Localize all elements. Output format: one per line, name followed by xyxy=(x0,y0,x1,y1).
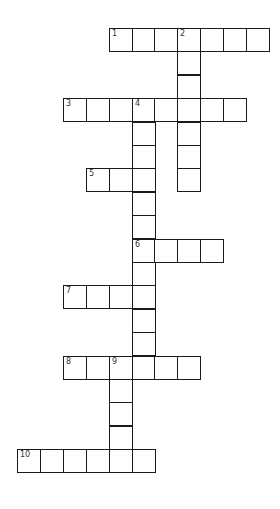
crossword-cell[interactable] xyxy=(132,28,156,52)
clue-number: 7 xyxy=(66,287,71,295)
clue-number: 3 xyxy=(66,100,71,108)
crossword-cell[interactable]: 5 xyxy=(86,168,110,192)
crossword-cell[interactable] xyxy=(177,168,201,192)
clue-number: 4 xyxy=(135,100,140,108)
clue-number: 2 xyxy=(180,30,185,38)
crossword-cell[interactable] xyxy=(132,309,156,333)
clue-number: 9 xyxy=(112,358,117,366)
crossword-cell[interactable] xyxy=(86,449,110,473)
crossword-cell[interactable] xyxy=(109,98,133,122)
crossword-cell[interactable] xyxy=(86,285,110,309)
clue-number: 6 xyxy=(135,241,140,249)
clue-number: 5 xyxy=(89,170,94,178)
crossword-cell[interactable] xyxy=(86,356,110,380)
crossword-cell[interactable] xyxy=(40,449,64,473)
crossword-grid: 12346578910 xyxy=(0,0,280,509)
crossword-cell[interactable] xyxy=(177,98,201,122)
crossword-cell[interactable] xyxy=(132,285,156,309)
crossword-cell[interactable] xyxy=(177,75,201,99)
crossword-cell[interactable] xyxy=(223,98,247,122)
clue-number: 8 xyxy=(66,358,71,366)
crossword-cell[interactable] xyxy=(132,215,156,239)
crossword-cell[interactable] xyxy=(109,426,133,450)
crossword-cell[interactable] xyxy=(223,28,247,52)
crossword-cell[interactable] xyxy=(246,28,270,52)
crossword-cell[interactable] xyxy=(154,98,178,122)
crossword-cell[interactable] xyxy=(132,332,156,356)
crossword-cell[interactable]: 8 xyxy=(63,356,87,380)
crossword-cell[interactable]: 10 xyxy=(17,449,41,473)
crossword-cell[interactable] xyxy=(109,285,133,309)
crossword-cell[interactable]: 4 xyxy=(132,98,156,122)
crossword-cell[interactable]: 9 xyxy=(109,356,133,380)
crossword-cell[interactable] xyxy=(132,122,156,146)
crossword-cell[interactable]: 6 xyxy=(132,239,156,263)
crossword-cell[interactable] xyxy=(132,356,156,380)
crossword-cell[interactable] xyxy=(109,402,133,426)
crossword-cell[interactable] xyxy=(132,168,156,192)
crossword-cell[interactable] xyxy=(132,192,156,216)
crossword-cell[interactable]: 7 xyxy=(63,285,87,309)
crossword-cell[interactable] xyxy=(154,239,178,263)
crossword-cell[interactable] xyxy=(154,28,178,52)
crossword-cell[interactable] xyxy=(63,449,87,473)
crossword-cell[interactable] xyxy=(86,98,110,122)
crossword-cell[interactable] xyxy=(177,122,201,146)
crossword-cell[interactable] xyxy=(132,145,156,169)
clue-number: 10 xyxy=(20,451,30,459)
crossword-cell[interactable]: 1 xyxy=(109,28,133,52)
crossword-cell[interactable] xyxy=(200,239,224,263)
crossword-cell[interactable] xyxy=(132,449,156,473)
crossword-cell[interactable] xyxy=(177,356,201,380)
crossword-cell[interactable] xyxy=(109,168,133,192)
crossword-cell[interactable] xyxy=(200,98,224,122)
crossword-cell[interactable] xyxy=(177,239,201,263)
crossword-cell[interactable] xyxy=(109,449,133,473)
crossword-cell[interactable] xyxy=(132,262,156,286)
crossword-cell[interactable]: 3 xyxy=(63,98,87,122)
crossword-cell[interactable] xyxy=(177,51,201,75)
crossword-cell[interactable] xyxy=(200,28,224,52)
crossword-cell[interactable]: 2 xyxy=(177,28,201,52)
crossword-cell[interactable] xyxy=(109,379,133,403)
crossword-cell[interactable] xyxy=(177,145,201,169)
clue-number: 1 xyxy=(112,30,117,38)
crossword-cell[interactable] xyxy=(154,356,178,380)
